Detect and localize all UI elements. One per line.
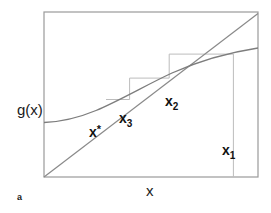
annotation-x1: x1 xyxy=(222,143,235,161)
y-axis-label: g(x) xyxy=(17,101,43,118)
panel-caption: a xyxy=(17,192,22,202)
annotation-x3-base: x xyxy=(119,110,127,126)
figure-container: g(x) x x* x3 x2 x1 a xyxy=(0,0,271,213)
annotation-x-star-base: x xyxy=(89,124,97,140)
annotation-x3-sub: 3 xyxy=(127,118,133,129)
annotation-x3: x3 xyxy=(119,111,132,129)
annotation-x1-base: x xyxy=(222,142,230,158)
x-axis-label: x xyxy=(146,182,154,199)
annotation-x2-base: x xyxy=(165,93,173,109)
annotation-x-star: x* xyxy=(89,124,101,139)
annotation-x1-sub: 1 xyxy=(230,150,236,161)
annotation-x-star-sup: * xyxy=(97,123,101,135)
gx-curve xyxy=(44,48,258,123)
annotation-x2-sub: 2 xyxy=(173,101,179,112)
annotation-x2: x2 xyxy=(165,94,178,112)
